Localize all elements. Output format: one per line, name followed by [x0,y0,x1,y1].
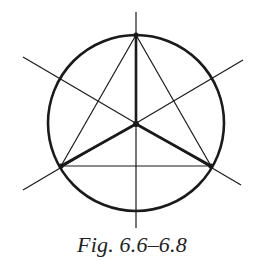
spoke-bottom-left [61,124,136,166]
vertex-point-bottom-right [208,163,213,168]
center-point [133,121,139,127]
geometry-figure [0,0,264,235]
symmetry-lines [23,12,243,228]
vertex-point-top [133,32,138,37]
spoke-bottom-right [136,124,211,166]
figure-caption: Fig. 6.6–6.8 [0,232,264,258]
vertex-point-bottom-left [58,163,63,168]
